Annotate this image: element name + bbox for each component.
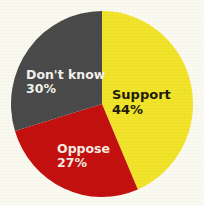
pie-chart-figure: Support 44% Don't know 30% Oppose 27% bbox=[0, 0, 204, 205]
pie-chart-svg bbox=[11, 11, 193, 197]
pie-chart-canvas bbox=[11, 11, 193, 197]
